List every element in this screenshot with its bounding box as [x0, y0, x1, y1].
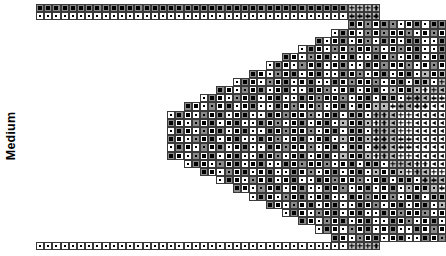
pattern-cell: [298, 135, 306, 143]
cell-symbol-dot: [398, 169, 404, 175]
cell-symbol-plus: [406, 120, 412, 126]
pattern-cell: [282, 78, 290, 86]
pattern-cell: [331, 217, 339, 225]
pattern-cell: [389, 94, 397, 102]
cell-symbol-dot: [332, 120, 338, 126]
cell-symbol-dot: [250, 185, 256, 191]
pattern-cell: [118, 12, 126, 20]
cell-symbol-dot: [275, 243, 281, 249]
pattern-cell: [266, 86, 274, 94]
pattern-cell: [266, 127, 274, 135]
cell-symbol-dot: [193, 128, 199, 134]
pattern-cell: [430, 86, 438, 94]
pattern-cell: [380, 127, 388, 135]
pattern-cell: [298, 70, 306, 78]
cell-symbol-sq: [414, 54, 420, 60]
pattern-cell: [249, 168, 257, 176]
pattern-cell: [430, 135, 438, 143]
pattern-cell: [233, 176, 241, 184]
cell-symbol-sq: [349, 30, 355, 36]
cell-symbol-sq: [398, 202, 404, 208]
pattern-cell: [282, 102, 290, 110]
pattern-cell: [298, 86, 306, 94]
pattern-cell: [413, 78, 421, 86]
pattern-cell: [159, 12, 167, 20]
pattern-cell: [36, 12, 44, 20]
cell-symbol-tri: [422, 120, 428, 126]
cell-symbol-sq: [316, 177, 322, 183]
pattern-cell: [397, 176, 405, 184]
cell-symbol-dot: [45, 243, 51, 249]
cell-symbol-sq: [267, 95, 273, 101]
pattern-cell: [298, 127, 306, 135]
pattern-cell: [134, 242, 142, 250]
cell-symbol-sq: [340, 54, 346, 60]
pattern-cell: [438, 234, 446, 242]
cell-symbol-tri: [422, 153, 428, 159]
cell-symbol-sq: [324, 128, 330, 134]
pattern-cell: [389, 217, 397, 225]
cell-symbol-sq: [316, 136, 322, 142]
cell-symbol-sq: [226, 120, 232, 126]
cell-symbol-sq: [291, 112, 297, 118]
pattern-cell: [348, 53, 356, 61]
pattern-cell: [348, 127, 356, 135]
pattern-cell: [389, 184, 397, 192]
pattern-cell: [274, 127, 282, 135]
cell-symbol-sq: [340, 30, 346, 36]
pattern-cell: [61, 242, 69, 250]
pattern-cell: [282, 135, 290, 143]
cell-symbol-sq: [324, 202, 330, 208]
cell-symbol-sq: [316, 71, 322, 77]
cell-symbol-dot: [242, 161, 248, 167]
pattern-cell: [421, 20, 429, 28]
cell-symbol-dot: [152, 243, 158, 249]
pattern-cell: [208, 152, 216, 160]
pattern-cell: [257, 143, 265, 151]
cell-symbol-sq: [299, 136, 305, 142]
pattern-cell: [356, 20, 364, 28]
pattern-cell: [241, 127, 249, 135]
pattern-cell: [430, 127, 438, 135]
cell-symbol-dot: [340, 112, 346, 118]
pattern-cell: [208, 135, 216, 143]
cell-symbol-sq: [283, 103, 289, 109]
pattern-cell: [249, 176, 257, 184]
cell-symbol-sq: [135, 5, 141, 11]
pattern-cell: [339, 61, 347, 69]
cell-symbol-sq: [340, 79, 346, 85]
pattern-cell: [364, 160, 372, 168]
pattern-cell: [405, 37, 413, 45]
pattern-cell: [274, 201, 282, 209]
cell-symbol-sq: [324, 95, 330, 101]
pattern-cell: [421, 70, 429, 78]
cell-symbol-sq: [390, 30, 396, 36]
cell-symbol-plus: [431, 177, 437, 183]
cell-symbol-sq: [217, 103, 223, 109]
pattern-cell: [249, 135, 257, 143]
pattern-cell: [430, 37, 438, 45]
pattern-cell: [339, 4, 347, 12]
cell-symbol-dot: [340, 128, 346, 134]
cell-symbol-sq: [332, 128, 338, 134]
cell-symbol-dot: [349, 62, 355, 68]
pattern-cell: [430, 152, 438, 160]
pattern-cell: [167, 242, 175, 250]
pattern-cell: [397, 225, 405, 233]
cell-symbol-sq: [267, 169, 273, 175]
pattern-cell: [69, 12, 77, 20]
cell-symbol-dot: [365, 153, 371, 159]
cell-symbol-sq: [381, 21, 387, 27]
cell-symbol-dot: [406, 30, 412, 36]
cell-symbol-dot: [308, 13, 314, 19]
pattern-cell: [389, 225, 397, 233]
pattern-cell: [413, 37, 421, 45]
pattern-cell: [323, 193, 331, 201]
pattern-cell: [241, 168, 249, 176]
pattern-cell: [216, 143, 224, 151]
pattern-cell: [397, 184, 405, 192]
pattern-cell: [77, 12, 85, 20]
pattern-cell: [175, 143, 183, 151]
pattern-cell: [348, 209, 356, 217]
cell-symbol-tri: [422, 136, 428, 142]
